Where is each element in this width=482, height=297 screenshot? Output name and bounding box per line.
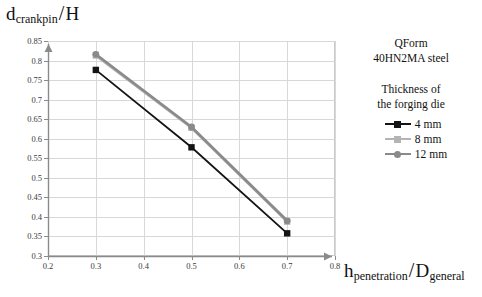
x-axis-tick-label: 0.8 [320,261,350,271]
legend-item[interactable]: 8 mm [385,132,447,146]
data-point-marker [188,124,195,131]
legend-marker-icon [385,134,411,144]
data-point-marker [93,67,99,73]
x-axis-tick-mark [48,256,49,260]
plot-area [48,41,335,256]
x-axis-tick-label: 0.6 [224,261,254,271]
x-axis-tick-label: 0.2 [33,261,63,271]
y-axis-tick-label: 0.4 [12,212,42,222]
y-axis-tick-mark [44,197,48,198]
x-axis-tick-mark [287,256,288,260]
x-axis-tick-mark [239,256,240,260]
y-axis-tick-mark [44,119,48,120]
x-axis-title: hpenetration/Dgeneral [344,259,465,284]
x-axis-title-denominator-subscript: general [429,269,464,283]
y-axis-tick-label: 0.65 [12,114,42,124]
legend-label: 8 mm [415,133,442,145]
chart-figure: dcrankpin/H hpenetration/Dgeneral 0.30.3… [0,0,482,297]
y-axis-tick-mark [44,80,48,81]
legend-item[interactable]: 4 mm [385,117,447,131]
legend-marker-icon [385,149,411,159]
gridline-vertical [335,41,336,256]
y-axis-tick-mark [44,158,48,159]
data-series-layer [48,41,335,256]
material-label: 40HN2MA steel [345,51,477,66]
y-axis-tick-mark [44,217,48,218]
software-label: QForm [345,36,477,51]
data-point-marker [284,230,290,236]
x-axis-title-denominator: D [415,260,429,281]
y-axis-tick-label: 0.55 [12,153,42,163]
annotation-block: QForm 40HN2MA steel Thickness of the for… [345,36,477,163]
y-axis-tick-mark [44,100,48,101]
x-axis-tick-mark [335,256,336,260]
legend-label: 12 mm [415,148,447,160]
y-axis-tick-mark [44,41,48,42]
y-axis-tick-label: 0.6 [12,134,42,144]
y-axis-tick-label: 0.8 [12,56,42,66]
y-axis-tick-mark [44,178,48,179]
x-axis-tick-label: 0.7 [272,261,302,271]
series-line [96,54,287,221]
y-axis-title-main: d [6,3,16,24]
y-axis-tick-label: 0.85 [12,36,42,46]
y-axis-tick-label: 0.35 [12,231,42,241]
legend-label: 4 mm [415,118,442,130]
y-axis-tick-label: 0.3 [12,251,42,261]
x-axis-tick-mark [96,256,97,260]
y-axis-title-denominator: H [65,3,79,24]
data-point-marker [188,144,194,150]
x-axis-tick-mark [144,256,145,260]
y-axis-tick-label: 0.45 [12,192,42,202]
y-axis-title-subscript: crankpin [16,12,58,26]
x-axis-tick-mark [192,256,193,260]
y-axis-tick-mark [44,61,48,62]
legend-title-line-1: Thickness of [345,82,477,97]
data-point-marker [92,51,99,58]
y-axis-tick-label: 0.7 [12,95,42,105]
series-line [96,56,287,222]
legend-item[interactable]: 12 mm [385,147,447,161]
y-axis-tick-label: 0.5 [12,173,42,183]
y-axis-tick-label: 0.75 [12,75,42,85]
x-axis-tick-label: 0.5 [177,261,207,271]
x-axis-tick-label: 0.3 [81,261,111,271]
legend: 4 mm8 mm12 mm [375,116,447,162]
x-axis-title-subscript: penetration [354,269,408,283]
legend-marker-icon [385,119,411,129]
legend-title-line-2: the forging die [345,97,477,112]
series-line [96,70,287,233]
annotation-spacer [345,66,477,82]
y-axis-title: dcrankpin/H [6,2,79,27]
y-axis-tick-mark [44,236,48,237]
data-point-marker [284,217,291,224]
x-axis-tick-label: 0.4 [129,261,159,271]
y-axis-tick-mark [44,139,48,140]
